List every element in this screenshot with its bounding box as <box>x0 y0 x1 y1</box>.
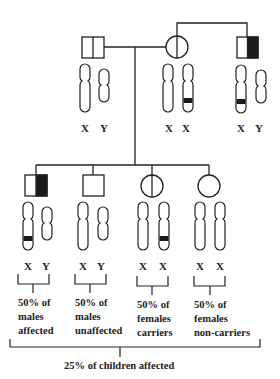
child1-x-label: X <box>24 260 32 272</box>
mother-x2-chromosome-mutant <box>183 64 193 112</box>
child2-description: 50% of males unaffected <box>75 297 122 336</box>
mother-x2-label: X <box>182 122 190 134</box>
grandfather-mother-line <box>177 23 247 37</box>
child3-x1-chromosome <box>138 202 148 250</box>
child1-bracket <box>18 274 49 293</box>
grandfather-y-label: Y <box>255 122 263 134</box>
child4-bracket <box>194 276 225 295</box>
child3-description: 50% of females carriers <box>137 299 173 338</box>
child4-symbol <box>198 175 220 197</box>
child4-x1-label: X <box>196 260 204 272</box>
child2-x-chromosome <box>78 202 88 250</box>
grandfather-x-label: X <box>237 122 245 134</box>
sibship-line <box>36 165 209 175</box>
child4-x2-label: X <box>216 260 224 272</box>
child1-y-chromosome <box>42 207 52 240</box>
child3-x1-label: X <box>139 260 147 272</box>
child4-description: 50% of females non-carriers <box>194 299 250 338</box>
grandfather-x-chromosome-mutant <box>236 65 246 113</box>
mother-x1-label: X <box>165 122 173 134</box>
child3-symbol <box>141 175 163 197</box>
father-symbol <box>82 37 104 58</box>
father-y-label: Y <box>100 122 108 134</box>
child2-x-label: X <box>79 260 87 272</box>
father-y-chromosome <box>99 69 109 102</box>
mother-x1-chromosome <box>163 64 173 112</box>
summary-label: 25% of children affected <box>64 360 174 371</box>
child3-x2-chromosome-mutant <box>159 202 169 250</box>
grandfather-y-chromosome <box>256 70 266 103</box>
child1-y-label: Y <box>42 260 50 272</box>
father-x-label: X <box>81 122 89 134</box>
child4-x1-chromosome <box>195 202 205 250</box>
child2-y-chromosome <box>98 207 108 240</box>
mother-symbol <box>166 36 188 58</box>
father-x-chromosome <box>80 64 90 112</box>
pedigree-diagram: X Y X X X Y X Y X Y X X X X 50% of males… <box>0 0 280 379</box>
summary-bracket <box>10 339 260 357</box>
child2-symbol <box>83 175 104 196</box>
child1-symbol <box>25 175 47 196</box>
child1-description: 50% of males affected <box>18 297 54 336</box>
child2-y-label: Y <box>97 260 105 272</box>
child2-bracket <box>75 274 106 293</box>
child4-x2-chromosome <box>215 202 225 250</box>
grandfather-symbol <box>237 37 258 58</box>
child1-x-chromosome-mutant <box>23 202 33 250</box>
child3-bracket <box>137 276 168 295</box>
child3-x2-label: X <box>159 260 167 272</box>
